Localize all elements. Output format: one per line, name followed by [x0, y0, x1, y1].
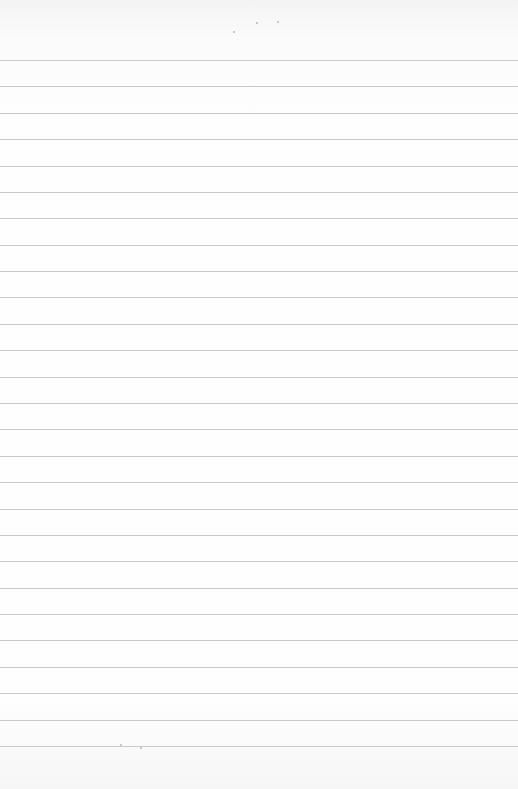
ruled-line [0, 746, 518, 747]
paper-speck [233, 31, 235, 33]
ruled-line [0, 60, 518, 61]
ruled-line [0, 561, 518, 562]
ruled-line [0, 614, 518, 615]
ruled-paper-sheet [0, 0, 518, 789]
ruled-line [0, 693, 518, 694]
ruled-line [0, 377, 518, 378]
ruled-line [0, 192, 518, 193]
paper-speck [120, 744, 122, 746]
ruled-line [0, 667, 518, 668]
ruled-line [0, 297, 518, 298]
ruled-line [0, 640, 518, 641]
ruled-line [0, 350, 518, 351]
ruled-line [0, 429, 518, 430]
ruled-line [0, 245, 518, 246]
ruled-line [0, 588, 518, 589]
paper-speck [256, 22, 258, 24]
ruled-line [0, 403, 518, 404]
ruled-line [0, 456, 518, 457]
ruled-line [0, 139, 518, 140]
ruled-line [0, 86, 518, 87]
ruled-line [0, 535, 518, 536]
ruled-line [0, 113, 518, 114]
ruled-line [0, 509, 518, 510]
ruled-line [0, 218, 518, 219]
ruled-line [0, 324, 518, 325]
paper-speck [140, 747, 142, 749]
ruled-line [0, 271, 518, 272]
ruled-line [0, 166, 518, 167]
ruled-line [0, 482, 518, 483]
ruled-line [0, 720, 518, 721]
paper-speck [277, 21, 279, 23]
